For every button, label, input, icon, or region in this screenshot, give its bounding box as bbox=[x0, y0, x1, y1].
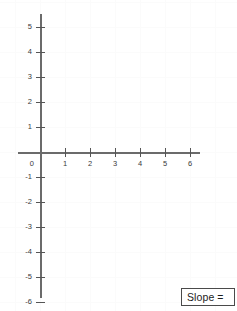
x-axis-tick bbox=[140, 148, 141, 157]
x-axis-tick-label: 1 bbox=[58, 160, 72, 168]
y-axis-tick-label: 4 bbox=[18, 48, 32, 56]
y-axis-tick bbox=[36, 252, 45, 253]
y-axis-tick bbox=[36, 277, 45, 278]
y-axis-tick-label: -1 bbox=[18, 173, 32, 181]
y-axis-tick bbox=[36, 102, 45, 103]
y-axis-tick bbox=[36, 127, 45, 128]
y-axis-tick bbox=[36, 52, 45, 53]
y-axis-tick bbox=[36, 202, 45, 203]
y-axis-tick-label: -4 bbox=[18, 248, 32, 256]
x-axis-tick-label: 4 bbox=[133, 160, 147, 168]
y-axis-tick-label: 5 bbox=[18, 23, 32, 31]
x-axis bbox=[18, 152, 200, 154]
origin-label: 0 bbox=[24, 160, 34, 168]
y-axis-tick-label: -2 bbox=[18, 198, 32, 206]
x-axis-tick bbox=[90, 148, 91, 157]
y-axis-tick bbox=[36, 227, 45, 228]
y-axis-tick-label: -3 bbox=[18, 223, 32, 231]
x-axis-tick-label: 3 bbox=[108, 160, 122, 168]
y-axis-tick bbox=[36, 302, 45, 303]
grid-line-horizontal bbox=[0, 2, 237, 3]
y-axis-tick-label: -6 bbox=[18, 298, 32, 306]
x-axis-tick-label: 5 bbox=[158, 160, 172, 168]
coordinate-plane: 12345654321-1-2-3-4-5-6 0 bbox=[0, 0, 237, 311]
y-axis-tick bbox=[36, 27, 45, 28]
x-axis-tick bbox=[115, 148, 116, 157]
x-axis-tick bbox=[165, 148, 166, 157]
y-axis-tick-label: 1 bbox=[18, 123, 32, 131]
y-axis-tick-label: 3 bbox=[18, 73, 32, 81]
y-axis bbox=[40, 14, 42, 298]
y-axis-tick-label: -5 bbox=[18, 273, 32, 281]
grid-line-vertical bbox=[215, 0, 216, 311]
grid-line-vertical bbox=[15, 0, 16, 311]
slope-label: Slope = bbox=[187, 291, 224, 303]
x-axis-tick-label: 6 bbox=[183, 160, 197, 168]
x-axis-tick bbox=[190, 148, 191, 157]
x-axis-tick-label: 2 bbox=[83, 160, 97, 168]
y-axis-tick-label: 2 bbox=[18, 98, 32, 106]
slope-answer-box[interactable]: Slope = bbox=[181, 288, 235, 306]
x-axis-tick bbox=[65, 148, 66, 157]
y-axis-tick bbox=[36, 177, 45, 178]
y-axis-tick bbox=[36, 77, 45, 78]
